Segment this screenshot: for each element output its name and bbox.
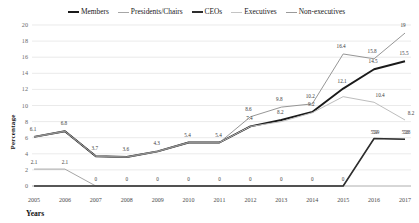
data-point-label: 15.5	[399, 52, 408, 57]
x-axis-tick-label: 2009	[143, 197, 173, 203]
legend-label: Non-executives	[299, 8, 345, 15]
data-point-label: 16.4	[337, 44, 346, 49]
plot-svg	[0, 20, 413, 195]
data-point-label: 0	[125, 177, 128, 182]
y-axis-tick-label: 20	[6, 22, 28, 28]
data-point-label: 0	[187, 177, 190, 182]
x-axis-tick-label: 2007	[81, 197, 111, 203]
plot-area	[0, 20, 413, 195]
series-line-non-executives	[34, 33, 405, 157]
data-point-label: 3.7	[92, 147, 98, 152]
x-axis-tick-label: 2005	[19, 197, 49, 203]
legend-swatch-icon	[118, 12, 129, 13]
legend-swatch-icon	[68, 11, 79, 13]
y-axis-tick-label: 16	[6, 54, 28, 60]
y-axis-tick-label: 2	[6, 167, 28, 173]
legend-item-presidents-chairs[interactable]: Presidents/Chairs	[118, 8, 183, 15]
data-point-label: 3.6	[123, 147, 129, 152]
legend-label: Members	[81, 8, 109, 15]
y-axis-tick-label: 0	[6, 183, 28, 189]
legend-swatch-icon	[192, 11, 203, 13]
legend-label: Executives	[244, 8, 276, 15]
data-point-label: 0	[280, 177, 283, 182]
data-point-label: 2.1	[62, 160, 68, 165]
legend-item-ceos[interactable]: CEOs	[192, 8, 223, 15]
data-point-label: 6.8	[61, 122, 67, 127]
x-axis-tick-label: 2016	[359, 197, 389, 203]
y-axis-tick-label: 8	[6, 119, 28, 125]
x-axis-tick-label: 2017	[390, 197, 419, 203]
data-point-label: 10.2	[306, 94, 315, 99]
data-point-label: 0	[95, 177, 98, 182]
y-axis-tick-label: 18	[6, 38, 28, 44]
legend-swatch-icon	[231, 12, 242, 13]
data-point-label: 8.2	[408, 111, 414, 116]
data-point-label: 0	[156, 177, 159, 182]
legend-swatch-icon	[286, 12, 297, 13]
data-point-label: 4.3	[153, 142, 159, 147]
y-axis-tick-label: 14	[6, 70, 28, 76]
x-axis-tick-label: 2014	[297, 197, 327, 203]
data-point-label: 19	[400, 23, 405, 28]
x-axis-tick-label: 2013	[266, 197, 296, 203]
data-point-label: 2.1	[31, 160, 37, 165]
data-point-label: 15.8	[368, 49, 377, 54]
data-point-label: 14.5	[369, 60, 378, 65]
data-point-label: 9.2	[308, 102, 314, 107]
legend-label: CEOs	[205, 8, 223, 15]
y-axis-tick-label: 12	[6, 86, 28, 92]
x-axis-tick-label: 2011	[205, 197, 235, 203]
data-point-label: 7.4	[246, 117, 252, 122]
data-point-label: 5.4	[215, 133, 221, 138]
legend-item-non-executives[interactable]: Non-executives	[286, 8, 345, 15]
data-point-label: 12.1	[338, 79, 347, 84]
data-point-label: 0	[249, 177, 252, 182]
y-axis-tick-label: 10	[6, 103, 28, 109]
chart-legend: MembersPresidents/ChairsCEOsExecutivesNo…	[0, 4, 413, 20]
data-point-label: 5.8	[404, 131, 410, 136]
data-point-label: 0	[218, 177, 221, 182]
data-point-label: 8.6	[245, 107, 251, 112]
legend-item-members[interactable]: Members	[68, 8, 109, 15]
data-point-label: 0	[311, 177, 314, 182]
y-axis-tick-label: 6	[6, 135, 28, 141]
x-axis-tick-label: 2015	[328, 197, 358, 203]
x-axis-title: Years	[26, 209, 44, 218]
data-point-label: 8.2	[277, 110, 283, 115]
data-point-label: 5.4	[184, 133, 190, 138]
x-axis-tick-label: 2008	[112, 197, 142, 203]
data-point-label: 5.9	[373, 130, 379, 135]
legend-item-executives[interactable]: Executives	[231, 8, 276, 15]
y-axis-tick-label: 4	[6, 151, 28, 157]
x-axis-tick-label: 2010	[174, 197, 204, 203]
data-point-label: 10.4	[376, 94, 385, 99]
x-axis-tick-label: 2006	[50, 197, 80, 203]
legend-label: Presidents/Chairs	[131, 8, 183, 15]
data-point-label: 6.1	[30, 127, 36, 132]
data-point-label: 0	[342, 177, 345, 182]
x-axis-tick-label: 2012	[235, 197, 265, 203]
data-point-label: 9.8	[276, 98, 282, 103]
